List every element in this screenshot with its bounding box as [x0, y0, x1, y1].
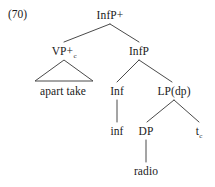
node-trace-c-subscript: c [199, 132, 202, 140]
edge-infp-plus-to-vp [64, 24, 110, 42]
node-inf-head: Inf [110, 86, 124, 98]
node-infp-plus-label: InfP+ [97, 9, 124, 21]
node-infp-label: InfP [129, 45, 149, 57]
node-lp-dp: LP(dp) [157, 86, 190, 98]
node-inf-terminal-label: inf [110, 125, 123, 137]
edge-lpdp-to-dp [147, 100, 174, 122]
edge-infp-to-inf [117, 60, 139, 82]
edge-infp-plus-to-infp [110, 24, 139, 42]
syntax-tree-figure: (70) InfP+ VP+c InfP apart take Inf LP(d… [0, 0, 215, 187]
node-vp-plus-c-label: VP+ [52, 45, 74, 57]
node-radio: radio [134, 166, 158, 178]
node-trace-c-label: t [196, 125, 199, 137]
vp-ellipsis-triangle [35, 60, 93, 81]
node-infp-plus: InfP+ [97, 10, 124, 22]
node-vp-plus-c-subscript: c [73, 52, 76, 60]
edge-lpdp-to-trace [174, 100, 199, 122]
node-radio-label: radio [134, 165, 158, 177]
edge-infp-to-lpdp [139, 60, 172, 82]
node-lp-dp-label: LP(dp) [157, 85, 190, 97]
node-apart-take: apart take [40, 86, 86, 98]
node-dp-label: DP [139, 125, 154, 137]
node-inf-head-label: Inf [110, 85, 124, 97]
node-vp-plus-c: VP+c [52, 46, 77, 58]
node-trace-c: tc [196, 126, 203, 138]
node-infp: InfP [129, 46, 149, 58]
node-inf-terminal: inf [110, 126, 123, 138]
node-dp: DP [139, 126, 154, 138]
node-apart-take-label: apart take [40, 85, 86, 97]
